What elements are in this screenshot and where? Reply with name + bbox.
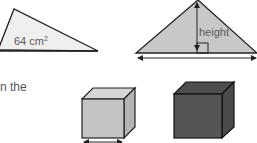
question-text-fragment: n the xyxy=(0,80,27,94)
right-triangle: height xyxy=(136,0,257,58)
area-label: 64 cm2 xyxy=(14,35,48,47)
diagram-canvas: 64 cm2 height xyxy=(0,0,257,143)
cube-front-face xyxy=(174,94,222,138)
left-triangle: 64 cm2 xyxy=(0,9,98,51)
large-dark-cube xyxy=(174,82,234,138)
height-label: height xyxy=(199,26,229,38)
small-light-cube xyxy=(82,88,135,142)
cube-front-face xyxy=(82,99,124,138)
